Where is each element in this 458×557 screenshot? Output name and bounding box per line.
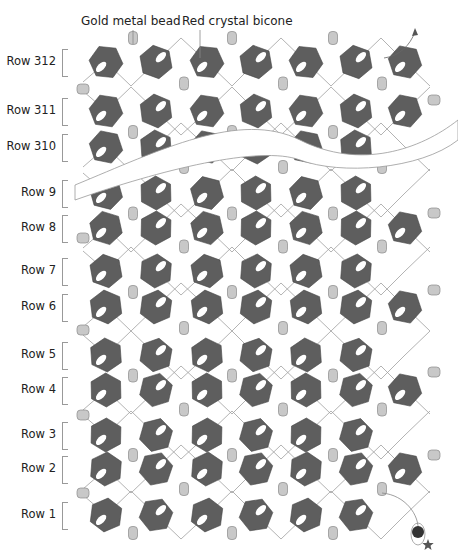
gold-metal-bead bbox=[180, 403, 189, 416]
row-label: Row 310 bbox=[0, 139, 56, 153]
row-label: Row 9 bbox=[0, 185, 56, 199]
row-bracket bbox=[62, 377, 68, 405]
gold-metal-bead bbox=[279, 240, 288, 253]
red-crystal-bicone bbox=[289, 95, 323, 127]
row-label: Row 4 bbox=[0, 382, 56, 396]
gold-metal-bead bbox=[77, 233, 89, 243]
gold-metal-bead bbox=[279, 403, 288, 416]
gold-metal-bead bbox=[428, 367, 440, 377]
red-crystal-bicone bbox=[291, 338, 322, 372]
red-crystal-bicone bbox=[239, 499, 273, 531]
gold-metal-bead bbox=[378, 403, 387, 416]
row-bracket bbox=[62, 294, 68, 322]
red-bicone-callout: Red crystal bicone bbox=[182, 14, 293, 28]
row-bracket bbox=[62, 49, 68, 77]
red-crystal-bicone bbox=[340, 419, 373, 452]
red-crystal-bicone bbox=[241, 211, 271, 245]
red-crystal-bicone bbox=[140, 419, 173, 452]
row-label: Row 3 bbox=[0, 427, 56, 441]
red-crystal-bicone bbox=[290, 290, 321, 324]
gold-metal-bead bbox=[77, 410, 89, 420]
row-bracket bbox=[62, 134, 68, 162]
red-crystal-bicone bbox=[89, 95, 123, 127]
red-crystal-bicone bbox=[140, 290, 171, 324]
row-bracket bbox=[62, 180, 68, 208]
gold-metal-bead bbox=[129, 527, 138, 540]
gold-metal-bead bbox=[180, 322, 189, 335]
row-label: Row 311 bbox=[0, 103, 56, 117]
red-crystal-bicone bbox=[141, 211, 171, 245]
red-crystal-bicone bbox=[340, 290, 371, 324]
red-crystal-bicone bbox=[191, 211, 223, 244]
gold-metal-bead bbox=[228, 32, 237, 45]
gold-metal-bead bbox=[228, 286, 237, 299]
red-crystal-bicone bbox=[90, 290, 121, 324]
gold-metal-bead bbox=[428, 285, 440, 295]
row-label: Row 2 bbox=[0, 461, 56, 475]
gold-metal-bead bbox=[129, 449, 138, 462]
red-crystal-bicone bbox=[388, 95, 421, 127]
red-crystal-bicone bbox=[141, 254, 172, 288]
gold-metal-bead bbox=[77, 325, 89, 335]
row-label: Row 1 bbox=[0, 507, 56, 521]
red-crystal-bicone bbox=[190, 95, 224, 127]
red-crystal-bicone bbox=[341, 254, 372, 288]
gold-metal-bead bbox=[180, 77, 189, 90]
gold-metal-bead bbox=[329, 126, 338, 139]
red-crystal-bicone bbox=[341, 176, 371, 210]
row-label: Row 8 bbox=[0, 220, 56, 234]
red-crystal-bicone bbox=[341, 211, 371, 245]
gold-metal-bead bbox=[378, 240, 387, 253]
gold-metal-bead bbox=[279, 483, 288, 496]
gold-metal-bead bbox=[228, 369, 237, 382]
red-crystal-bicone bbox=[140, 94, 171, 128]
red-crystal-bicone bbox=[192, 373, 222, 407]
red-crystal-bicone bbox=[91, 418, 121, 452]
red-crystal-bicone bbox=[90, 254, 122, 287]
gold-metal-bead bbox=[129, 126, 138, 139]
row-bracket bbox=[62, 502, 68, 530]
red-crystal-bicone bbox=[339, 499, 373, 531]
red-crystal-bicone bbox=[240, 338, 272, 371]
row-label: Row 6 bbox=[0, 299, 56, 313]
row-bracket bbox=[62, 456, 68, 484]
red-crystal-bicone bbox=[141, 176, 171, 210]
gold-metal-bead bbox=[428, 95, 440, 105]
gold-metal-bead bbox=[329, 449, 338, 462]
red-crystal-bicone bbox=[90, 498, 121, 532]
red-crystal-bicone bbox=[91, 373, 121, 407]
red-crystal-bicone bbox=[340, 373, 373, 406]
row-label: Row 7 bbox=[0, 263, 56, 277]
row-bracket bbox=[62, 258, 68, 286]
gold-metal-bead bbox=[329, 207, 338, 220]
gold-metal-bead bbox=[329, 286, 338, 299]
red-crystal-bicone bbox=[290, 211, 322, 244]
red-crystal-bicone bbox=[340, 338, 372, 371]
gold-metal-bead bbox=[329, 32, 338, 45]
start-star-icon bbox=[422, 539, 433, 550]
row-label: Row 312 bbox=[0, 54, 56, 68]
red-crystal-bicone bbox=[139, 499, 173, 531]
stopper-bead bbox=[412, 526, 424, 538]
arrow-head-icon bbox=[412, 28, 418, 36]
gold-metal-bead bbox=[129, 286, 138, 299]
red-crystal-bicone bbox=[91, 452, 122, 486]
red-crystal-bicone bbox=[140, 373, 173, 406]
gold-metal-bead bbox=[279, 77, 288, 90]
gold-metal-bead bbox=[228, 449, 237, 462]
gold-metal-bead bbox=[329, 369, 338, 382]
red-crystal-bicone bbox=[291, 452, 322, 486]
red-crystal-bicone bbox=[91, 338, 122, 372]
red-crystal-bicone bbox=[90, 211, 122, 244]
red-crystal-bicone bbox=[241, 254, 272, 288]
red-crystal-bicone bbox=[340, 94, 371, 128]
gold-metal-bead bbox=[180, 483, 189, 496]
gold-metal-bead bbox=[378, 322, 387, 335]
red-crystal-bicone bbox=[192, 338, 223, 372]
red-crystal-bicone bbox=[191, 498, 222, 532]
red-crystal-bicone bbox=[191, 290, 222, 324]
red-crystal-bicone bbox=[290, 177, 323, 210]
red-crystal-bicone bbox=[291, 418, 321, 452]
gold-metal-bead bbox=[378, 77, 387, 90]
red-crystal-bicone bbox=[240, 94, 271, 128]
